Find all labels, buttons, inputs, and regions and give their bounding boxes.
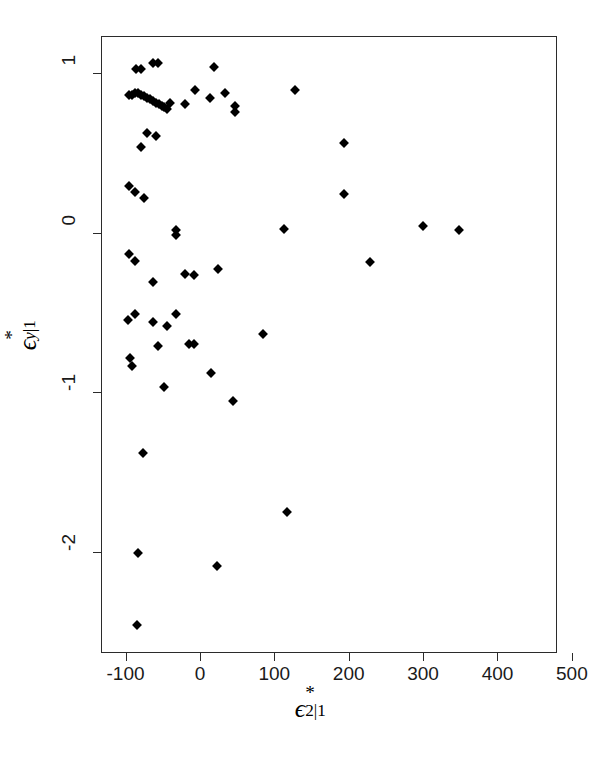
x-axis-tick-label: 200 (314, 663, 384, 685)
y-axis-tick-label: 1 (58, 55, 80, 89)
data-point (282, 507, 292, 517)
y-axis-label-subscript: y|1 (20, 320, 40, 340)
data-point (279, 224, 289, 234)
x-axis-tick (200, 653, 201, 661)
data-point (418, 221, 428, 231)
x-axis-tick (423, 653, 424, 661)
data-point (159, 382, 169, 392)
y-axis-tick-label: 0 (58, 215, 80, 249)
data-point (136, 142, 146, 152)
data-point (153, 341, 163, 351)
data-point (213, 264, 223, 274)
data-point (205, 93, 215, 103)
data-point-layer (102, 37, 556, 652)
data-point (162, 321, 172, 331)
data-point (221, 88, 231, 98)
data-point (138, 448, 148, 458)
x-axis-tick-label: 500 (537, 663, 600, 685)
y-axis-tick (93, 73, 101, 74)
x-axis-label-symbol: ϵ*2|1 (295, 694, 305, 724)
data-point (339, 189, 349, 199)
data-point (230, 107, 240, 117)
data-point (212, 561, 222, 571)
data-point (132, 620, 142, 630)
plot-panel (101, 36, 557, 653)
data-point (148, 317, 158, 327)
x-axis-tick-label: 300 (388, 663, 458, 685)
data-point (131, 256, 141, 266)
x-axis-tick (349, 653, 350, 661)
y-axis-tick (93, 233, 101, 234)
y-axis-tick (93, 392, 101, 393)
x-axis-tick (126, 653, 127, 661)
y-axis-label: ϵ*y|1 (13, 275, 43, 415)
data-point (189, 270, 199, 280)
data-point (258, 329, 268, 339)
data-point (290, 85, 300, 95)
scatter-plot-figure: ϵ*2|1 ϵ*y|1 -100010020030040050010-1-2 (0, 0, 600, 764)
data-point (127, 361, 137, 371)
y-axis-tick (93, 552, 101, 553)
x-axis-tick (572, 653, 573, 661)
y-axis-label-symbol: ϵ*y|1 (13, 340, 43, 350)
data-point (180, 99, 190, 109)
data-point (206, 368, 216, 378)
data-point (139, 193, 149, 203)
data-point (171, 309, 181, 319)
data-point (209, 62, 219, 72)
y-axis-tick-label: -1 (58, 374, 80, 408)
y-axis-tick-label: -2 (58, 534, 80, 568)
x-axis-label: ϵ*2|1 (0, 694, 600, 724)
data-point (228, 396, 238, 406)
data-point (148, 277, 158, 287)
x-axis-tick-label: 0 (165, 663, 235, 685)
data-point (142, 128, 152, 138)
data-point (133, 548, 143, 558)
x-axis-tick (274, 653, 275, 661)
data-point (339, 138, 349, 148)
x-axis-label-subscript: 2|1 (305, 701, 326, 721)
data-point (454, 225, 464, 235)
x-axis-tick-label: 400 (462, 663, 532, 685)
data-point (190, 85, 200, 95)
data-point (131, 309, 141, 319)
x-axis-tick-label: -100 (91, 663, 161, 685)
data-point (365, 257, 375, 267)
x-axis-tick (497, 653, 498, 661)
data-point (180, 269, 190, 279)
x-axis-tick-label: 100 (239, 663, 309, 685)
data-point (123, 315, 133, 325)
